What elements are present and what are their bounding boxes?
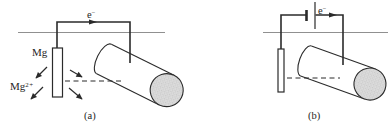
mg-ion-label: Mg2+ (10, 79, 34, 92)
circuit-wire-b-right (316, 15, 344, 65)
electron-flow-arrow-b (329, 13, 337, 18)
pipe-face-b (350, 64, 390, 105)
mg-ion-label-base: Mg (10, 80, 25, 92)
electron-label-sup-b: − (323, 5, 327, 12)
electron-flow-label-a: e− (87, 7, 96, 21)
electron-label-sup-a: − (92, 9, 96, 16)
pipe-end-cap-arc-b (294, 44, 311, 76)
caption-b: (b) (308, 110, 320, 122)
pipe-end-cap-arc-a (90, 41, 111, 74)
inert-anode-electrode (278, 49, 284, 92)
mg-anode-electrode (53, 48, 63, 97)
panel-a (18, 20, 189, 113)
mg-ion-label-sup: 2+ (25, 81, 33, 88)
mg-ion-arrow-upper-right (70, 70, 82, 77)
cathodic-protection-figure: e− Mg Mg2+ (a) e− (b) (0, 0, 390, 132)
pipe-top-edge-a (111, 44, 174, 75)
electron-flow-label-b: e− (318, 3, 327, 17)
buried-pipe-a (90, 41, 188, 112)
pipe-face-a (145, 68, 189, 112)
mg-label: Mg (32, 46, 47, 58)
caption-a: (a) (84, 110, 96, 122)
figure-linework (0, 0, 390, 132)
circuit-wire-a (57, 22, 130, 63)
mg-ion-arrow-lower-right (69, 88, 82, 99)
mg-ion-arrow-upper-left (36, 67, 47, 78)
panel-b (263, 2, 390, 105)
